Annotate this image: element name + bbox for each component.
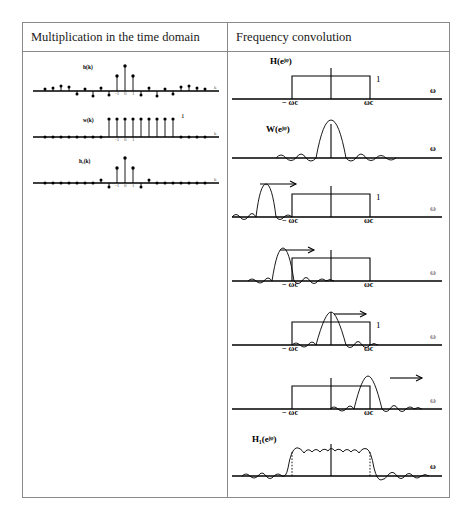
freq-row-conv-4-axis-label: ω [430,396,436,405]
plot-h-k-label: h(k) [83,64,93,70]
freq-row-conv-2-left-cutoff: − ωc [282,280,298,289]
freq-row-h-right-cutoff: ωc [364,98,373,107]
comparison-table: Multiplication in the time domain Freque… [22,22,450,498]
freq-row-w-axis-label: ω [430,144,436,153]
plot-h-k: h(k) [31,58,223,102]
plot-h1-k-tick-zero: 0 [124,183,127,188]
plot-w-k-amplitude-label: 1 [181,112,185,120]
plot-h1-k: h₁(k) [31,150,223,194]
freq-row-h-label: H(eʲᵠ) [270,56,292,66]
plot-w-k-axis-label: k [214,131,217,136]
freq-row-conv-1-right-cutoff: ωc [364,216,373,225]
freq-row-conv-4-left-cutoff: − ωc [282,408,298,417]
freq-row-result: H₁(eʲᵠ) ω [230,428,448,494]
plot-h-k-tick-zero: 0 [124,91,127,96]
plot-h1-k-tick-one: 1 [132,183,135,188]
plot-w-k-tick-minus1: -1 [115,137,119,142]
freq-row-conv-1-left-cutoff: − ωc [282,216,298,225]
freq-row-conv-2-axis-label: ω [430,268,436,277]
freq-row-conv-3-right-cutoff: ωc [364,344,373,353]
figure-page: Multiplication in the time domain Freque… [0,0,473,520]
freq-row-h-left-cutoff: − ωc [282,98,298,107]
plot-h-k-axis-label: k [214,85,217,90]
freq-row-h-amplitude-label: 1 [376,74,381,84]
table-header-row: Multiplication in the time domain Freque… [23,23,449,52]
freq-row-conv-4-right-cutoff: ωc [364,408,373,417]
freq-row-conv-3-left-cutoff: − ωc [282,344,298,353]
plot-h1-k-label: h₁(k) [79,158,90,164]
time-domain-column: h(k) [23,52,227,498]
plot-w-k-tick-one: 1 [132,137,135,142]
frequency-domain-column: H(eʲᵠ) 1 − ωc ωc ω W(eʲᵠ) ω [228,52,450,498]
plot-h1-k-axis-label: k [214,177,217,182]
plot-h-k-tick-one: 1 [132,91,135,96]
freq-row-w-label: W(eʲᵠ) [266,124,290,134]
freq-row-conv-1-amplitude-label: 1 [376,192,381,202]
freq-row-conv-2-right-cutoff: ωc [364,280,373,289]
freq-row-h: H(eʲᵠ) 1 − ωc ωc ω [230,54,448,116]
freq-row-conv-3-amplitude-label: 1 [376,320,381,330]
freq-row-h-axis-label: ω [430,86,436,95]
plot-h-k-tick-minus1: -1 [115,91,119,96]
freq-row-conv-2: − ωc ωc ω [230,236,448,298]
freq-row-result-axis-label: ω [430,462,436,471]
header-time-domain: Multiplication in the time domain [23,23,235,51]
freq-row-conv-3: 1 − ωc ωc ω [230,300,448,362]
plot-h1-k-tick-minus1: -1 [115,183,119,188]
freq-row-conv-1: 1 − ωc ωc ω [230,172,448,234]
plot-w-k: w(k) 1 [31,104,223,148]
freq-row-result-label: H₁(eʲᵠ) [252,434,277,444]
freq-row-conv-3-axis-label: ω [430,332,436,341]
freq-row-conv-1-axis-label: ω [430,204,436,213]
plot-w-k-label: w(k) [83,117,94,123]
plot-w-k-tick-zero: 0 [124,137,127,142]
freq-row-conv-4: − ωc ωc ω [230,364,448,426]
freq-row-w: W(eʲᵠ) ω [230,118,448,170]
header-frequency-convolution: Frequency convolution [228,23,458,51]
